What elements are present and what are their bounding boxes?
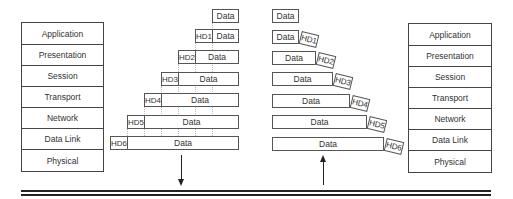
left-layer-application: Application <box>22 23 103 44</box>
packet-header-hd5: HD5 <box>127 115 145 129</box>
right-layer-application: Application <box>409 24 491 45</box>
packet-data: Data <box>272 30 299 44</box>
packet-data: Data <box>144 115 239 129</box>
left-layer-physical: Physical <box>22 149 103 171</box>
packet-data: Data <box>212 29 239 43</box>
packet-data: Data <box>212 9 239 23</box>
packet-header-hd5: HD5 <box>367 116 388 133</box>
packet-data: Data <box>161 93 239 107</box>
packet-data: Data <box>272 51 316 65</box>
packet-data: Data <box>195 50 239 64</box>
packet-header-hd2: HD2 <box>178 50 196 64</box>
right-osi-stack: Application Presentation Session Transpo… <box>408 23 492 173</box>
left-osi-stack: Application Presentation Session Transpo… <box>21 22 104 172</box>
packet-header-hd1: HD1 <box>299 31 320 48</box>
left-layer-network: Network <box>22 107 103 128</box>
packet-header-hd4: HD4 <box>350 95 371 112</box>
packet-header-hd2: HD2 <box>316 52 337 69</box>
packet-header-hd1: HD1 <box>195 29 213 43</box>
packet-data: Data <box>272 94 350 108</box>
left-layer-session: Session <box>22 65 103 86</box>
packet-data: Data <box>272 9 299 23</box>
left-layer-transport: Transport <box>22 86 103 107</box>
guide-line <box>127 129 128 136</box>
packet-data: Data <box>272 72 333 86</box>
right-layer-network: Network <box>409 108 491 129</box>
packet-header-hd6: HD6 <box>110 136 128 150</box>
right-layer-physical: Physical <box>409 150 491 172</box>
right-layer-transport: Transport <box>409 87 491 108</box>
right-layer-data-link: Data Link <box>409 129 491 150</box>
packet-data: Data <box>272 115 367 129</box>
packet-data: Data <box>272 137 384 151</box>
packet-header-hd4: HD4 <box>144 93 162 107</box>
right-layer-presentation: Presentation <box>409 45 491 66</box>
packet-header-hd3: HD3 <box>161 72 179 86</box>
packet-header-hd3: HD3 <box>333 73 354 90</box>
packet-data: Data <box>127 136 239 150</box>
right-layer-session: Session <box>409 66 491 87</box>
packet-data: Data <box>178 72 239 86</box>
packet-header-hd6: HD6 <box>384 138 405 155</box>
left-layer-presentation: Presentation <box>22 44 103 65</box>
left-layer-data-link: Data Link <box>22 128 103 149</box>
